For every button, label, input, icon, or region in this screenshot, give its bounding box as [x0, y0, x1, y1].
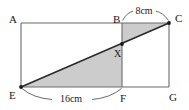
vertex-label-B: B [113, 13, 120, 25]
point-marker-X [120, 42, 124, 46]
geometry-figure: A B C E F G X 8cm 16cm [0, 0, 189, 110]
point-marker-C [167, 21, 171, 25]
dimension-arc-bottom-right [92, 89, 122, 100]
vertex-label-G: G [169, 91, 177, 103]
dimension-label-16cm: 16cm [60, 93, 82, 104]
figure-canvas: A B C E F G X 8cm 16cm [0, 0, 189, 110]
vertex-label-F: F [120, 92, 126, 104]
vertex-label-C: C [175, 12, 182, 24]
vertex-label-A: A [9, 13, 17, 25]
dimension-arc-top-right [156, 11, 169, 20]
dimension-arc-top-left [123, 11, 134, 20]
dimension-arc-bottom-left [22, 89, 52, 100]
vertex-label-E: E [9, 89, 16, 101]
dimension-label-8cm: 8cm [135, 5, 152, 16]
point-label-X: X [114, 48, 122, 59]
